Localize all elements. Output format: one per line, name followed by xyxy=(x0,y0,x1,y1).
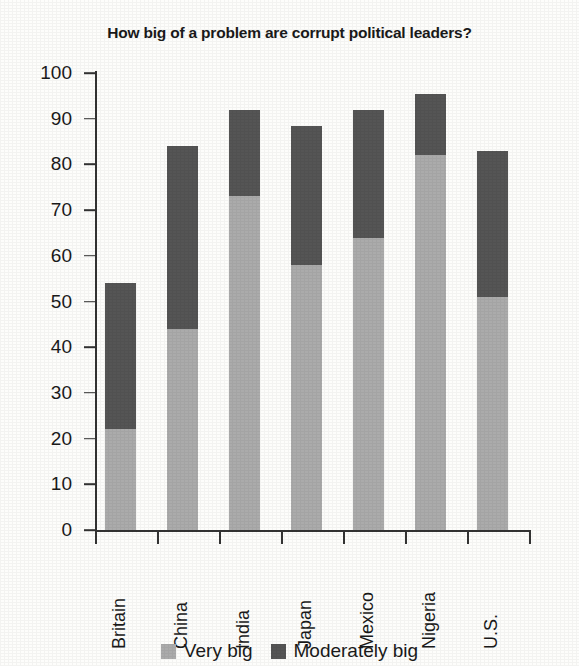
y-axis-tick-label: 100 xyxy=(26,62,72,84)
y-axis-tick-label: 50 xyxy=(26,291,72,313)
y-axis-tick-mark xyxy=(84,118,96,120)
bar-segment-moderately-big xyxy=(477,151,508,297)
y-axis-tick-label: 60 xyxy=(26,245,72,267)
bar-segment-moderately-big xyxy=(291,126,322,265)
bar-china xyxy=(167,146,198,530)
y-axis-tick-mark xyxy=(84,209,96,211)
bar-segment-moderately-big xyxy=(229,110,260,197)
bar-segment-very-big xyxy=(105,429,136,530)
bar-segment-very-big xyxy=(229,196,260,530)
y-axis-tick-label: 30 xyxy=(26,382,72,404)
bar-segment-moderately-big xyxy=(167,146,198,329)
bar-britain xyxy=(105,283,136,530)
y-axis-tick-mark xyxy=(84,301,96,303)
bar-mexico xyxy=(353,110,384,530)
bar-segment-moderately-big xyxy=(105,283,136,429)
y-axis-tick-mark xyxy=(84,255,96,257)
x-axis-tick-mark xyxy=(343,531,345,544)
y-axis-tick-label: 20 xyxy=(26,428,72,450)
x-axis-tick-mark xyxy=(467,531,469,544)
bar-segment-very-big xyxy=(477,297,508,530)
bar-segment-very-big xyxy=(291,265,322,530)
x-axis-tick-mark xyxy=(529,531,531,544)
legend-swatch-very-big xyxy=(161,644,176,659)
y-axis-tick-mark xyxy=(84,346,96,348)
y-axis-tick-label: 0 xyxy=(26,519,72,541)
x-axis-tick-mark xyxy=(157,531,159,544)
chart-legend: Very bigModerately big xyxy=(0,640,579,662)
bar-segment-very-big xyxy=(167,329,198,530)
y-axis-tick-mark xyxy=(84,72,96,74)
bar-us xyxy=(477,151,508,530)
legend-swatch-moderately-big xyxy=(271,644,286,659)
y-axis-tick-label: 10 xyxy=(26,473,72,495)
x-axis-tick-mark xyxy=(405,531,407,544)
y-axis-tick-label: 80 xyxy=(26,153,72,175)
y-axis-tick-mark xyxy=(84,392,96,394)
y-axis-tick-label: 40 xyxy=(26,336,72,358)
plot-area: 1009080706050403020100 BritainChinaIndia… xyxy=(0,0,579,666)
bar-segment-moderately-big xyxy=(353,110,384,238)
y-axis-tick-mark xyxy=(84,164,96,166)
legend-label: Very big xyxy=(184,640,253,662)
y-axis-tick-mark xyxy=(84,438,96,440)
bar-segment-very-big xyxy=(415,155,446,530)
y-axis-tick-label: 90 xyxy=(26,108,72,130)
x-axis-line xyxy=(95,530,531,532)
bar-segment-very-big xyxy=(353,238,384,530)
bar-india xyxy=(229,110,260,530)
x-axis-tick-mark xyxy=(95,531,97,544)
y-axis-tick-label: 70 xyxy=(26,199,72,221)
x-axis-tick-mark xyxy=(219,531,221,544)
legend-item: Moderately big xyxy=(271,640,419,662)
legend-label: Moderately big xyxy=(294,640,419,662)
legend-item: Very big xyxy=(161,640,253,662)
bar-segment-moderately-big xyxy=(415,94,446,156)
x-axis-tick-mark xyxy=(281,531,283,544)
bar-nigeria xyxy=(415,94,446,530)
bar-japan xyxy=(291,126,322,530)
y-axis-tick-mark xyxy=(84,484,96,486)
